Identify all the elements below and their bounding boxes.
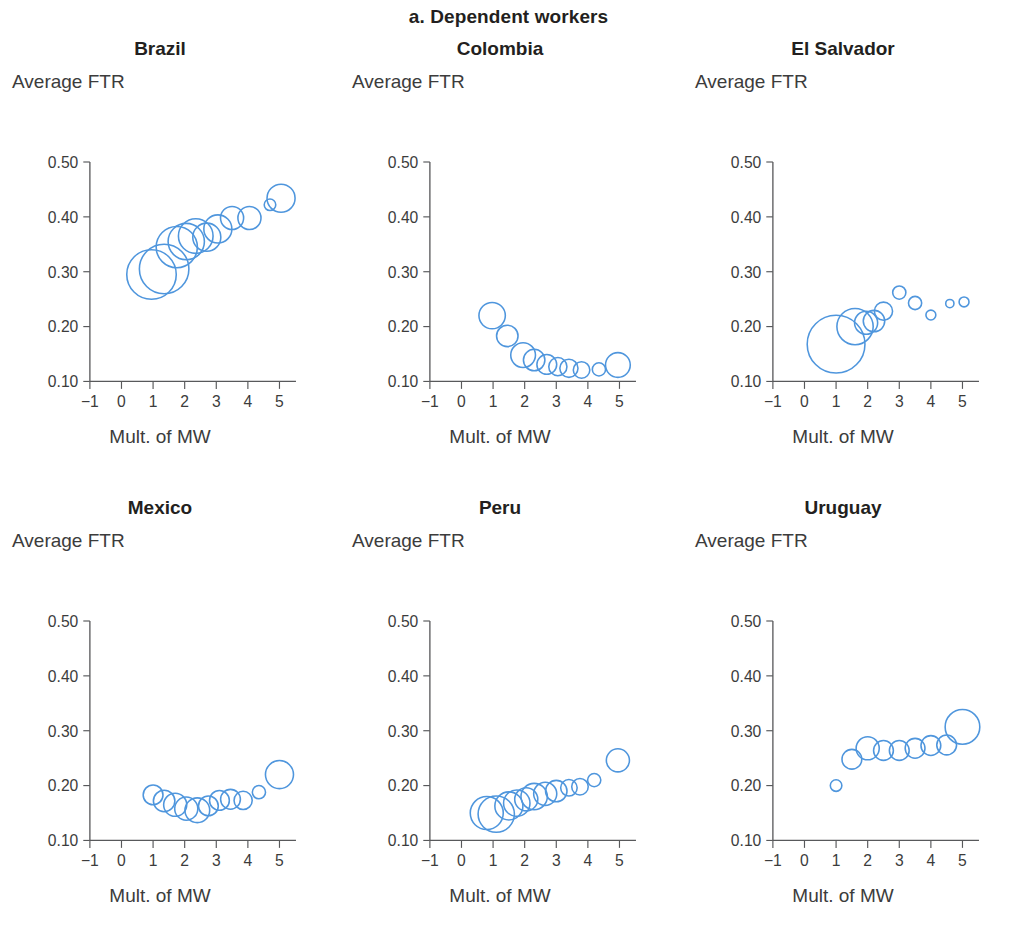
bubble-marker [830,780,842,792]
bubble-series [127,184,295,299]
panel-title: Colombia [340,38,660,60]
bubble-marker [572,778,589,795]
y-tick-label: 0.50 [388,154,419,171]
bubble-marker [265,761,293,789]
bubble-marker [946,299,954,307]
bubble-marker [908,296,921,309]
x-tick-label: 4 [584,852,593,869]
bubble-marker [592,363,605,376]
y-tick-label: 0.20 [388,318,419,335]
bubble-marker [945,710,980,745]
y-tick-label: 0.50 [48,613,79,630]
x-tick-label: 5 [275,852,284,869]
bubble-marker [267,184,295,212]
bubble-series [143,761,293,823]
y-tick-label: 0.40 [388,668,419,685]
bubble-marker [937,735,957,755]
bubble-marker [511,343,536,368]
panel-peru: PeruAverage FTRMult. of MW0.500.400.300.… [340,497,679,937]
x-tick-label: 2 [863,393,872,410]
x-tick-label: −1 [81,393,99,410]
y-tick-label: 0.50 [731,154,762,171]
x-axis-label: Mult. of MW [683,426,1003,448]
x-axis-label: Mult. of MW [0,426,320,448]
y-tick-label: 0.40 [48,209,79,226]
x-tick-label: −1 [764,852,782,869]
panel-title: Mexico [0,497,320,519]
y-axis-label: Average FTR [352,530,465,552]
x-tick-label: 5 [615,852,624,869]
y-tick-label: 0.40 [48,668,79,685]
panel-mexico: MexicoAverage FTRMult. of MW0.500.400.30… [0,497,339,937]
y-tick-label: 0.20 [731,318,762,335]
y-tick-label: 0.40 [731,668,762,685]
plot-area: 0.500.400.300.200.10−1012345 [0,555,339,885]
y-tick-label: 0.10 [731,373,762,390]
x-tick-label: 1 [832,393,841,410]
y-tick-label: 0.30 [48,723,79,740]
x-tick-label: −1 [421,852,439,869]
bubble-marker [479,302,505,328]
x-tick-label: 4 [927,393,936,410]
x-tick-label: 3 [552,393,561,410]
x-tick-label: 3 [212,393,221,410]
panel-title: Brazil [0,38,320,60]
y-tick-label: 0.10 [388,373,419,390]
panel-title: El Salvador [683,38,1003,60]
bubble-marker [497,325,518,346]
x-tick-label: 3 [212,852,221,869]
x-tick-label: 0 [800,852,809,869]
x-axis-label: Mult. of MW [0,885,320,907]
y-axis-label: Average FTR [12,71,125,93]
x-tick-label: 0 [117,852,126,869]
y-axis-label: Average FTR [12,530,125,552]
bubble-marker [238,206,261,229]
bubble-marker [210,791,230,811]
bubble-marker [959,297,969,307]
x-tick-label: 4 [584,393,593,410]
bubble-marker [470,797,503,830]
panel-title: Uruguay [683,497,1003,519]
x-tick-label: 5 [615,393,624,410]
x-tick-label: 1 [489,852,498,869]
bubble-marker [874,741,894,761]
x-tick-label: 3 [895,852,904,869]
y-tick-label: 0.40 [731,209,762,226]
y-tick-label: 0.10 [48,832,79,849]
bubble-marker [926,310,936,320]
x-tick-label: −1 [81,852,99,869]
x-tick-label: 5 [958,393,967,410]
x-tick-label: 2 [863,852,872,869]
y-tick-label: 0.30 [388,723,419,740]
x-axis-label: Mult. of MW [340,426,660,448]
x-tick-label: −1 [421,393,439,410]
y-tick-label: 0.50 [731,613,762,630]
plot-area: 0.500.400.300.200.10−1012345 [683,96,1017,426]
y-tick-label: 0.30 [731,264,762,281]
x-tick-label: −1 [764,393,782,410]
panel-colombia: ColombiaAverage FTRMult. of MW0.500.400.… [340,38,679,478]
x-tick-label: 0 [800,393,809,410]
panel-uruguay: UruguayAverage FTRMult. of MW0.500.400.3… [683,497,1017,937]
y-tick-label: 0.20 [731,777,762,794]
y-tick-label: 0.50 [388,613,419,630]
x-tick-label: 2 [520,393,529,410]
x-tick-label: 5 [958,852,967,869]
x-axis-label: Mult. of MW [340,885,660,907]
bubble-series [479,302,630,378]
y-axis-label: Average FTR [352,71,465,93]
bubble-marker [264,199,276,211]
x-tick-label: 3 [552,852,561,869]
x-tick-label: 5 [275,393,284,410]
y-tick-label: 0.10 [48,373,79,390]
panel-title: Peru [340,497,660,519]
x-tick-label: 3 [895,393,904,410]
x-tick-label: 1 [489,393,498,410]
panel-brazil: BrazilAverage FTRMult. of MW0.500.400.30… [0,38,339,478]
y-tick-label: 0.30 [48,264,79,281]
plot-area: 0.500.400.300.200.10−1012345 [683,555,1017,885]
x-tick-label: 0 [117,393,126,410]
bubble-marker [252,786,265,799]
x-tick-label: 2 [180,852,189,869]
y-tick-label: 0.20 [388,777,419,794]
